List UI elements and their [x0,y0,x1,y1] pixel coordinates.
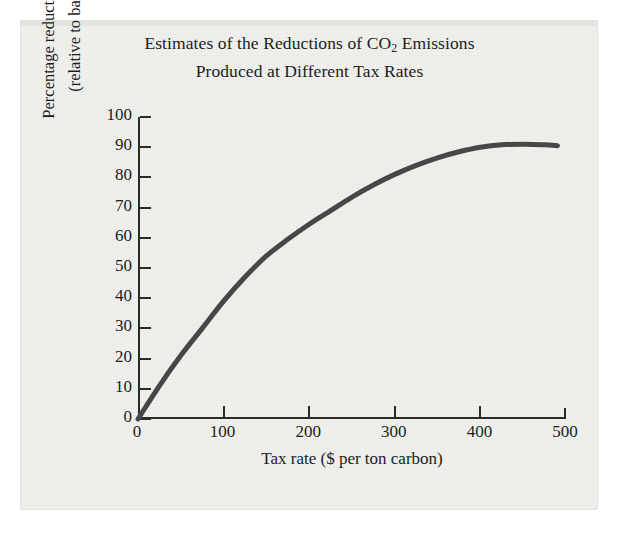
y-tick-label: 80 [92,165,132,185]
y-tick-label: 30 [92,316,132,336]
plot-area: 0102030405060708090100 0100200300400500 [138,117,566,419]
y-tick-label: 70 [92,196,132,216]
y-axis-title-line-1: Percentage reduction of CO2 [38,0,64,174]
y-tick-label: 10 [92,377,132,397]
y-axis-title: Percentage reduction of CO2 (relative to… [38,0,94,174]
x-axis-title: Tax rate ($ per ton carbon) [138,449,566,469]
x-tick-label: 200 [283,422,333,442]
x-tick-label: 400 [454,422,504,442]
series-svg [138,117,566,419]
x-tick-label: 300 [369,422,419,442]
y-tick-label: 100 [92,105,132,125]
x-tick-label: 100 [198,422,248,442]
x-tick-label: 0 [112,422,162,442]
y-tick-label: 40 [92,286,132,306]
y-tick-label: 90 [92,135,132,155]
x-tick-label: 500 [540,422,590,442]
co2-reduction-curve [138,144,557,419]
co2-subscript-title: 2 [391,41,397,55]
y-tick-label: 20 [92,347,132,367]
chart-screenshot: Estimates of the Reductions of CO2 Emiss… [0,0,619,533]
y-tick-label: 60 [92,226,132,246]
y-axis-title-line-2: (relative to baseline) [64,0,85,174]
y-tick-label: 50 [92,256,132,276]
